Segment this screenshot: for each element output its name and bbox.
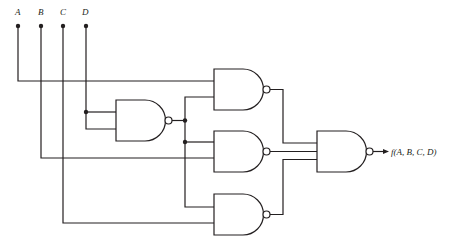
wire-a [18,26,214,81]
output-arrow-icon [383,149,389,154]
nand-gate-3 [214,194,263,235]
wire-g0-bus [185,97,214,207]
logic-circuit-diagram: A B C D f(A, B, C, D) [0,0,450,247]
junction-d [84,110,88,114]
output-label: f(A, B, C, D) [391,147,437,157]
wire-g3-to-g4 [270,160,317,215]
junction-g0-out [183,118,187,122]
input-label-c: C [60,7,67,17]
input-label-b: B [38,7,44,17]
nand-gate-final [317,131,366,172]
wire-d [86,26,116,129]
wire-g1-to-g4 [270,90,317,144]
nand-gate-0 [116,100,166,141]
inversion-bubble-0 [165,117,172,124]
inversion-bubble-3 [263,211,270,218]
input-label-d: D [81,7,89,17]
inversion-bubble-final [366,148,373,155]
input-label-a: A [14,7,21,17]
nand-gate-1 [214,69,263,110]
inversion-bubble-2 [263,148,270,155]
nand-gate-2 [214,131,263,172]
junction-g0-g2 [183,140,187,144]
inversion-bubble-1 [263,86,270,93]
